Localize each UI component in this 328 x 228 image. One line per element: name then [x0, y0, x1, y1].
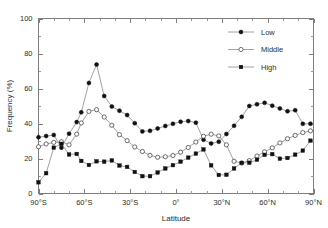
data-point-high [240, 161, 244, 165]
data-point-low [163, 124, 167, 128]
data-point-high [286, 156, 290, 160]
data-point-middle [125, 139, 129, 143]
x-tick-label: 60°N [259, 198, 276, 207]
legend-item-low[interactable]: Low [228, 28, 275, 37]
data-point-middle [293, 133, 297, 137]
data-point-low [148, 129, 152, 133]
legend-label: High [261, 63, 276, 72]
data-point-low [194, 121, 198, 125]
legend-marker-low [239, 30, 243, 34]
y-axis-title: Frequency (%) [5, 79, 14, 132]
y-tick-label: 60 [24, 84, 32, 93]
data-point-low [179, 120, 183, 124]
data-point-low [156, 126, 160, 130]
data-point-high [301, 149, 305, 153]
data-point-middle [133, 145, 137, 149]
data-point-high [309, 139, 313, 143]
data-point-middle [110, 123, 114, 127]
data-point-middle [171, 153, 175, 157]
data-point-high [202, 148, 206, 152]
series-high [37, 139, 313, 184]
data-point-low [67, 132, 71, 136]
data-point-low [110, 105, 114, 109]
data-point-middle [44, 142, 48, 146]
x-tick-label: 90°S [30, 198, 46, 207]
legend-item-high[interactable]: High [228, 63, 276, 72]
data-point-low [232, 124, 236, 128]
data-point-high [232, 167, 236, 171]
data-point-middle [36, 145, 40, 149]
legend-label: Low [261, 28, 275, 37]
data-point-low [125, 113, 129, 117]
x-tick-label: 30°S [122, 198, 138, 207]
data-point-low [301, 122, 305, 126]
data-point-low [140, 129, 144, 133]
data-point-high [102, 160, 106, 164]
data-point-low [278, 106, 282, 110]
tick-labels: 90°S60°S30°S0°30°N60°N90°N020406080100 [20, 14, 322, 206]
data-point-high [179, 160, 183, 164]
data-point-middle [148, 153, 152, 157]
y-tick-label: 100 [20, 14, 33, 23]
data-point-high [209, 164, 213, 168]
data-point-low [293, 108, 297, 112]
data-point-high [293, 153, 297, 157]
data-point-low [286, 109, 290, 113]
data-point-middle [285, 137, 289, 141]
series-middle [36, 108, 312, 166]
data-point-high [37, 181, 41, 185]
x-tick-label: 30°N [213, 198, 230, 207]
data-point-middle [102, 115, 106, 119]
data-point-high [118, 164, 122, 168]
data-point-low [263, 101, 267, 105]
plot-series-layer [36, 63, 312, 185]
y-tick-label: 0 [28, 189, 32, 198]
series-line-low [39, 65, 311, 148]
data-point-middle [301, 131, 305, 135]
y-tick-label: 80 [24, 49, 32, 58]
data-point-high [110, 159, 114, 163]
data-point-high [255, 158, 259, 162]
data-point-high [95, 160, 99, 164]
legend-label: Middle [261, 45, 283, 54]
data-point-low [186, 119, 190, 123]
data-point-high [156, 171, 160, 175]
data-point-low [87, 81, 91, 85]
legend-marker-middle [239, 47, 243, 51]
data-point-middle [163, 155, 167, 159]
data-point-high [60, 142, 64, 146]
data-point-high [225, 173, 229, 177]
data-point-middle [156, 155, 160, 159]
data-point-high [248, 161, 252, 165]
data-point-low [171, 122, 175, 126]
legend-marker-high [239, 65, 243, 69]
x-tick-label: 0° [172, 198, 179, 207]
data-point-high [217, 173, 221, 177]
data-point-high [263, 153, 267, 157]
data-point-middle [255, 154, 259, 158]
data-point-low [102, 94, 106, 98]
x-tick-label: 90°N [305, 198, 322, 207]
data-point-middle [209, 132, 213, 136]
data-point-middle [117, 133, 121, 137]
frequency-latitude-line-chart: 90°S60°S30°S0°30°N60°N90°N020406080100 L… [0, 0, 328, 228]
data-point-high [186, 156, 190, 160]
data-point-high [87, 163, 91, 167]
data-point-high [67, 153, 71, 157]
data-point-low [79, 110, 83, 114]
data-point-high [171, 163, 175, 167]
data-point-middle [308, 129, 312, 133]
data-point-high [44, 171, 48, 175]
data-point-low [209, 141, 213, 145]
data-point-high [194, 152, 198, 156]
y-tick-label: 20 [24, 154, 32, 163]
data-point-low [247, 104, 251, 108]
data-point-middle [67, 143, 71, 147]
data-point-high [125, 165, 129, 169]
data-point-middle [270, 146, 274, 150]
data-point-middle [52, 140, 56, 144]
data-point-middle [278, 141, 282, 145]
legend-item-middle[interactable]: Middle [228, 45, 283, 54]
series-low [37, 63, 313, 150]
data-point-low [240, 115, 244, 119]
